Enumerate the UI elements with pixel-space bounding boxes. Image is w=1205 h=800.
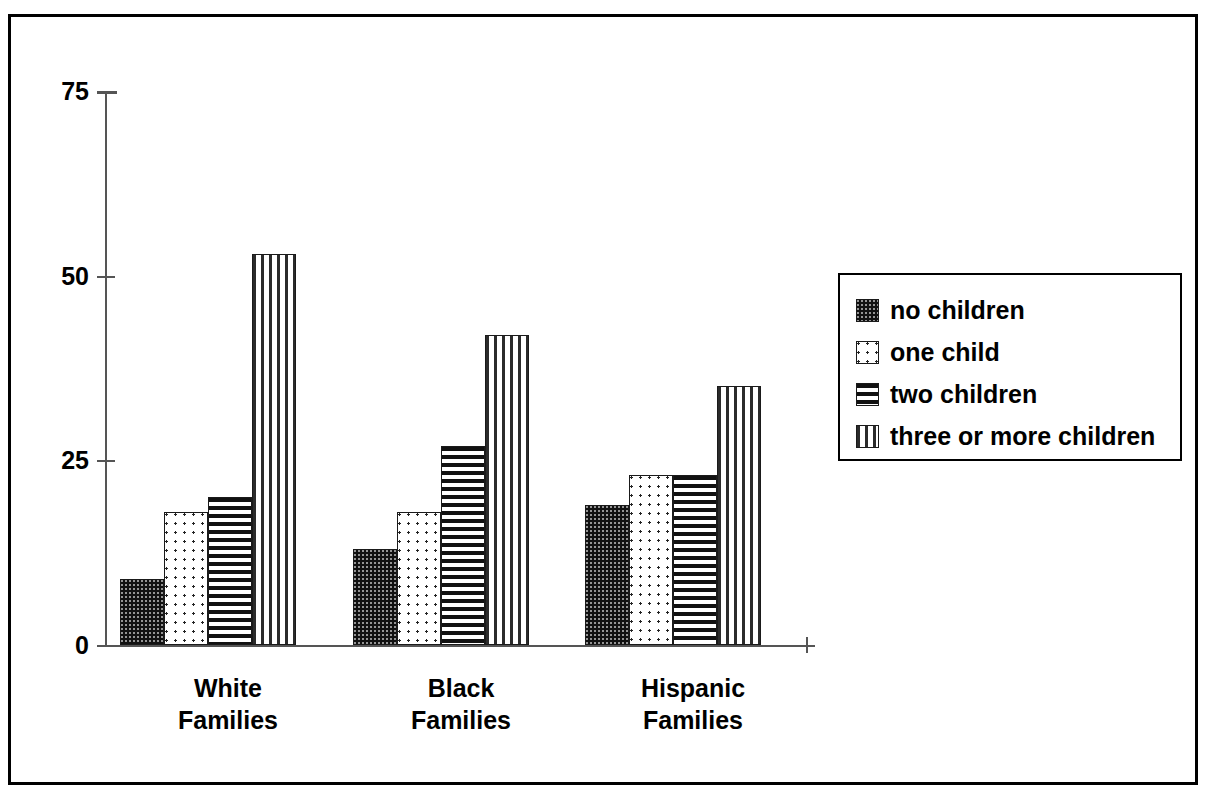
group-label-hispanic-line1: Hispanic: [573, 672, 813, 704]
y-axis-line: [105, 91, 107, 646]
x-axis-end-tick: [806, 637, 808, 653]
x-axis-line: [105, 645, 815, 647]
group-label-hispanic-line2: Families: [573, 704, 813, 736]
legend-item-three-or-more-children: three or more children: [856, 415, 1180, 457]
legend-swatch-vertical-lines-icon: [856, 425, 879, 448]
bar-white-families-three-or-more-children: [252, 254, 296, 645]
group-label-white-line1: White: [108, 672, 348, 704]
y-tick-label-25: 25: [19, 446, 89, 475]
group-label-black-line2: Families: [341, 704, 581, 736]
bar-hispanic-families-two-children: [673, 475, 717, 645]
y-tick-label-0: 0: [19, 631, 89, 660]
plot-area: 75 50 25 0 White Families Black Families…: [11, 17, 1201, 788]
legend-label-two-children: two children: [890, 380, 1037, 409]
legend-label-three-or-more-children: three or more children: [890, 422, 1155, 451]
bar-hispanic-families-three-or-more-children: [717, 386, 761, 645]
figure-frame: 75 50 25 0 White Families Black Families…: [8, 14, 1198, 785]
y-tick-75: [97, 91, 117, 94]
legend-label-no-children: no children: [890, 296, 1025, 325]
bar-white-families-no-children: [120, 579, 164, 645]
y-tick-25: [97, 460, 115, 462]
y-tick-50: [97, 276, 115, 278]
bar-black-families-two-children: [441, 446, 485, 645]
bar-hispanic-families-no-children: [585, 505, 629, 645]
bar-white-families-one-child: [164, 512, 208, 645]
group-label-white-line2: Families: [108, 704, 348, 736]
bar-black-families-one-child: [397, 512, 441, 645]
bar-hispanic-families-one-child: [629, 475, 673, 645]
bar-white-families-two-children: [208, 497, 252, 645]
y-tick-label-75: 75: [19, 77, 89, 106]
legend-swatch-dense-dots-icon: [856, 299, 879, 322]
legend-item-two-children: two children: [856, 373, 1180, 415]
y-tick-0: [97, 645, 115, 647]
group-label-black-line1: Black: [341, 672, 581, 704]
y-tick-label-50: 50: [19, 262, 89, 291]
group-label-white: White Families: [108, 672, 348, 736]
legend-swatch-horizontal-lines-icon: [856, 383, 879, 406]
bar-black-families-three-or-more-children: [485, 335, 529, 645]
legend-item-no-children: no children: [856, 289, 1180, 331]
legend-item-one-child: one child: [856, 331, 1180, 373]
legend-label-one-child: one child: [890, 338, 1000, 367]
legend-swatch-sparse-dots-icon: [856, 341, 879, 364]
group-label-black: Black Families: [341, 672, 581, 736]
group-label-hispanic: Hispanic Families: [573, 672, 813, 736]
bar-black-families-no-children: [353, 549, 397, 645]
legend: no children one child two children three…: [838, 273, 1182, 461]
